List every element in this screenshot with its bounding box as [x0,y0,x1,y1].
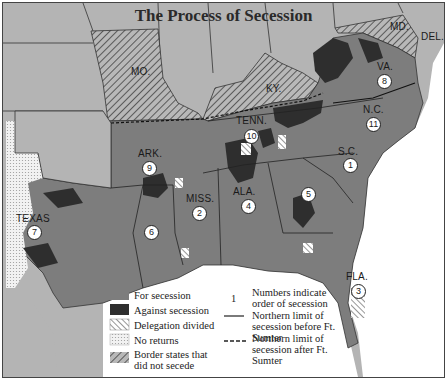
order-louisiana: 6 [144,225,159,240]
order-florida: 3 [351,284,366,299]
order-georgia: 5 [301,187,316,202]
order-arkansas: 9 [142,161,157,176]
label-alabama: ALA. [233,186,255,197]
map-canvas [3,3,444,377]
legend-for-secession: For secession [134,290,191,301]
order-virginia: 8 [377,74,392,89]
order-tennessee: 10 [244,129,259,144]
label-delaware: DEL. [421,31,444,42]
label-south-carolina: S.C. [338,146,358,157]
legend-against-secession: Against secession [134,305,209,316]
order-alabama: 4 [241,199,256,214]
label-texas: TEXAS [16,213,50,224]
legend-no-returns: No returns [134,335,179,346]
label-virginia: VA. [377,61,393,72]
secession-map: The Process of Secession MO. KY. MD. DEL… [2,2,445,378]
map-title: The Process of Secession [3,6,444,26]
order-mississippi: 2 [192,206,207,221]
legend-numbers-text: Numbers indicate order of secession [252,287,347,309]
order-north-carolina: 11 [366,117,381,132]
legend-dashed-line: Northern limit of secession after Ft. Su… [252,333,357,366]
label-mississippi: MISS. [186,193,214,204]
order-south-carolina: 1 [343,158,358,173]
label-tennessee: TENN. [236,115,267,126]
label-missouri: MO. [131,66,151,77]
label-florida: FLA. [346,271,368,282]
label-arkansas: ARK. [138,148,162,159]
label-north-carolina: N.C. [363,104,384,115]
legend-number-symbol: 1 [231,293,236,304]
label-maryland: MD. [390,21,409,32]
label-kentucky: KY. [266,83,281,94]
legend-delegation-divided: Delegation divided [134,320,214,331]
legend-border-states: Border states that did not secede [134,349,214,371]
order-texas: 7 [27,225,42,240]
